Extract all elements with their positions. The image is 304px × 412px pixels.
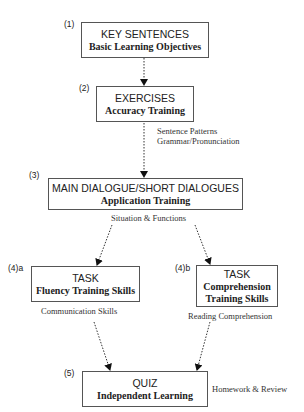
- step-3-title: MAIN DIALOGUE/SHORT DIALOGUES: [52, 182, 239, 195]
- note-sentence-patterns: Sentence Patterns: [157, 126, 217, 136]
- step-5-title: QUIZ: [132, 377, 157, 390]
- step-2-subtitle: Accuracy Training: [105, 105, 185, 117]
- step-4a-number: (4)a: [8, 263, 23, 273]
- note-homework-review: Homework & Review: [212, 384, 287, 394]
- step-2-exercises-box: EXERCISES Accuracy Training: [96, 86, 194, 122]
- arrow-4b-to-5: [197, 322, 210, 370]
- step-5-quiz-box: QUIZ Independent Learning: [82, 371, 208, 407]
- step-1-number: (1): [64, 19, 74, 29]
- step-2-number: (2): [79, 83, 89, 93]
- arrow-4a-to-5: [94, 322, 110, 370]
- note-grammar-pronunciation: Grammar/Pronunciation: [157, 136, 240, 146]
- step-2-title: EXERCISES: [115, 92, 175, 105]
- note-communication-skills: Communication Skills: [41, 306, 117, 316]
- step-5-subtitle: Independent Learning: [97, 390, 193, 402]
- note-situation-functions: Situation & Functions: [111, 213, 186, 223]
- step-4a-fluency-task-box: TASK Fluency Training Skills: [31, 266, 140, 302]
- step-4b-number: (4)b: [175, 263, 190, 273]
- step-4b-subtitle-line1: Comprehension: [203, 281, 271, 293]
- step-3-number: (3): [29, 170, 39, 180]
- step-3-subtitle: Application Training: [101, 195, 190, 207]
- step-4a-subtitle: Fluency Training Skills: [36, 285, 135, 297]
- step-4b-title: TASK: [224, 268, 251, 281]
- step-1-subtitle: Basic Learning Objectives: [89, 41, 201, 53]
- step-4a-title: TASK: [72, 272, 99, 285]
- note-reading-comprehension: Reading Comprehension: [188, 311, 272, 321]
- step-4b-subtitle-line2: Training Skills: [206, 293, 269, 305]
- step-4b-comprehension-task-box: TASK Comprehension Training Skills: [196, 265, 278, 307]
- arrow-3-to-4a: [97, 225, 112, 265]
- step-5-number: (5): [64, 368, 74, 378]
- step-1-title: KEY SENTENCES: [101, 28, 189, 41]
- step-3-main-dialogue-box: MAIN DIALOGUE/SHORT DIALOGUES Applicatio…: [48, 178, 243, 210]
- arrow-3-to-4b: [195, 225, 210, 264]
- step-1-key-sentences-box: KEY SENTENCES Basic Learning Objectives: [81, 22, 209, 58]
